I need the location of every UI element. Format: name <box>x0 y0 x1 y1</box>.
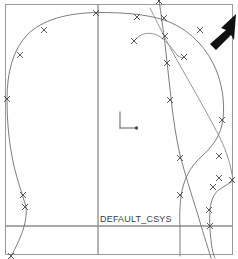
cad-3d-model-viewport[interactable]: DEFAULT_CSYS <box>0 0 238 259</box>
cad-drawing-canvas[interactable]: DEFAULT_CSYS <box>0 0 238 259</box>
csys-z-axis-dot <box>135 126 138 129</box>
csys-label: DEFAULT_CSYS <box>100 214 172 224</box>
